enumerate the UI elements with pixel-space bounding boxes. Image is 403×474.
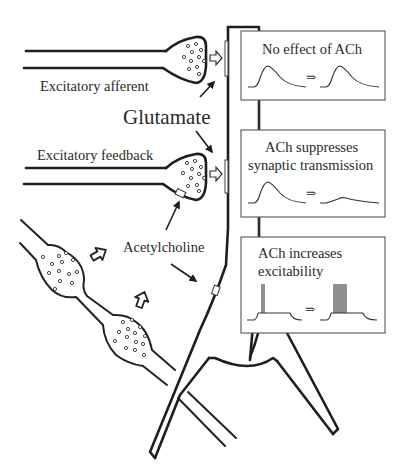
- box-suppresses-title-line1: ACh suppresses: [265, 139, 358, 155]
- cholinergic-axon-lower-edge: [20, 243, 167, 385]
- glutamate-arrow-up-icon: [200, 82, 214, 97]
- box-increases-excitability: ACh increases excitability ⇒: [241, 237, 385, 333]
- comparison-arrow-icon: ⇒: [305, 302, 315, 316]
- comparison-arrow-icon: ⇒: [306, 70, 316, 84]
- comparison-arrow-icon: ⇒: [306, 186, 316, 200]
- label-excitatory-afferent: Excitatory afferent: [40, 78, 149, 94]
- basal-dendrite-right: [277, 361, 333, 434]
- box-suppresses-transmission: ACh suppresses synaptic transmission ⇒: [241, 130, 385, 217]
- ach-release-arrow-icon-1: [89, 244, 110, 264]
- label-acetylcholine: Acetylcholine: [123, 239, 204, 255]
- box-suppresses-title-line2: synaptic transmission: [248, 157, 374, 173]
- feedback-release-arrow-icon: [210, 167, 222, 181]
- afferent-bouton: [163, 37, 206, 83]
- label-excitatory-feedback: Excitatory feedback: [37, 147, 154, 163]
- soma-top: [209, 358, 277, 366]
- glutamate-arrow-down-icon: [196, 131, 212, 152]
- feedback-postsynaptic-bar: [225, 160, 228, 193]
- afferent-release-arrow-icon: [210, 51, 222, 65]
- label-glutamate: Glutamate: [123, 105, 210, 129]
- presynaptic-receptor: [175, 189, 186, 198]
- cholinergic-modulation-diagram: Excitatory afferent Glutamate Excitatory…: [0, 0, 403, 474]
- box-excitability-title-line2: excitability: [258, 263, 324, 279]
- dendritic-receptor: [211, 285, 220, 296]
- feedback-vesicles: [181, 159, 205, 192]
- afferent-vesicles: [182, 42, 205, 75]
- cholinergic-vesicles-lower: [113, 318, 146, 356]
- afferent-postsynaptic-bar: [225, 41, 228, 76]
- ach-arrow-to-feedback-icon: [166, 202, 179, 230]
- excitatory-afferent-axon: [24, 37, 228, 83]
- box-no-effect: No effect of ACh ⇒: [241, 31, 385, 100]
- ach-arrow-to-dendrite-icon: [171, 264, 196, 281]
- box-no-effect-title: No effect of ACh: [262, 41, 363, 57]
- ach-release-arrow-icon-2: [132, 290, 151, 310]
- box-excitability-title-line1: ACh increases: [258, 245, 343, 261]
